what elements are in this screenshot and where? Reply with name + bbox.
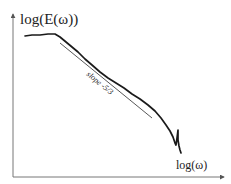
spectrum-curve	[25, 34, 181, 153]
slope-reference-line	[60, 43, 152, 118]
slope-label: slope -5/3	[85, 70, 115, 97]
y-axis-label: log(E(ω))	[20, 11, 78, 28]
spectrum-chart: log(E(ω)) log(ω) slope -5/3	[0, 0, 231, 184]
x-axis-label: log(ω)	[176, 158, 207, 172]
